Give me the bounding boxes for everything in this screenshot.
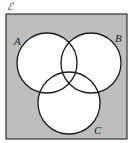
universal-set-label: ℰ: [7, 1, 14, 12]
set-c-label: C: [94, 124, 102, 136]
venn-diagram: ℰ A B C: [0, 0, 130, 143]
set-a-label: A: [13, 35, 21, 47]
venn-svg: ℰ A B C: [0, 0, 130, 143]
set-b-label: B: [115, 32, 122, 44]
